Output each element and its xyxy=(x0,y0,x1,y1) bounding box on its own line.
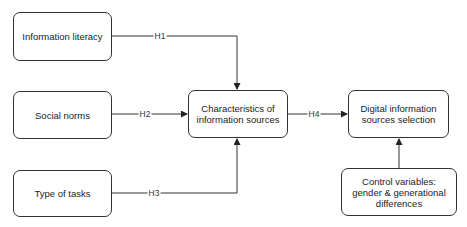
edge-label-h2: H2 xyxy=(139,109,152,119)
node-control-variables: Control variables: gender & generational… xyxy=(341,168,457,216)
node-information-literacy: Information literacy xyxy=(13,12,112,61)
node-label: Type of tasks xyxy=(35,188,91,199)
node-label: Characteristics of information sources xyxy=(193,103,283,125)
edge-h3 xyxy=(112,139,237,193)
edge-label-h4: H4 xyxy=(308,109,321,119)
node-label: Digital information sources selection xyxy=(357,103,440,125)
node-label: Social norms xyxy=(35,110,90,121)
node-type-of-tasks: Type of tasks xyxy=(13,170,112,217)
edge-label-h1: H1 xyxy=(154,31,167,41)
node-digital-information-sources-selection: Digital information sources selection xyxy=(348,90,449,138)
edge-label-h3: H3 xyxy=(148,188,161,198)
node-label: Information literacy xyxy=(22,31,102,42)
node-characteristics-of-information-sources: Characteristics of information sources xyxy=(188,90,288,138)
node-label: Control variables: gender & generational… xyxy=(346,176,452,209)
node-social-norms: Social norms xyxy=(13,91,112,139)
edge-h1 xyxy=(112,36,237,89)
